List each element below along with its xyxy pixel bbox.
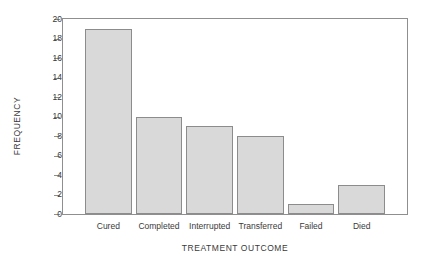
y-tick-label: 14	[22, 73, 62, 82]
x-tick-label-failed: Failed	[286, 220, 337, 232]
x-axis-tick-labels: CuredCompletedInterruptedTransferredFail…	[63, 220, 407, 234]
x-tick-label-cured: Cured	[83, 220, 134, 232]
bar-completed[interactable]	[136, 117, 183, 215]
bars-container	[63, 19, 407, 214]
y-axis-ticks: 02468101214161820	[8, 18, 62, 215]
y-tick-label: 16	[22, 54, 62, 63]
x-tick-label-completed: Completed	[134, 220, 185, 232]
y-tick-label: 2	[22, 190, 62, 199]
bar-chart-figure: FREQUENCY 02468101214161820 CuredComplet…	[0, 0, 424, 268]
y-tick-label: 10	[22, 112, 62, 121]
y-tick-label: 20	[22, 15, 62, 24]
x-tick-label-died: Died	[336, 220, 387, 232]
x-tick-label-interrupted: Interrupted	[184, 220, 235, 232]
bar-failed[interactable]	[288, 204, 335, 214]
y-tick-label: 8	[22, 132, 62, 141]
y-tick-label: 12	[22, 93, 62, 102]
x-axis-title: TREATMENT OUTCOME	[62, 243, 408, 253]
y-tick-label: 6	[22, 151, 62, 160]
bar-died[interactable]	[338, 185, 385, 214]
bar-interrupted[interactable]	[186, 126, 233, 214]
y-tick-label: 18	[22, 34, 62, 43]
x-tick-label-transferred: Transferred	[235, 220, 286, 232]
bar-cured[interactable]	[85, 29, 132, 214]
y-tick-label: 4	[22, 171, 62, 180]
bar-transferred[interactable]	[237, 136, 284, 214]
y-tick-label: 0	[22, 210, 62, 219]
